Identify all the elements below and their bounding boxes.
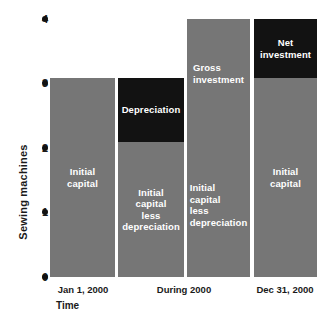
bar-2-segment-depreciation: Depreciation — [118, 78, 184, 142]
x-tick-label-during-2000: During 2000 — [123, 283, 245, 297]
bar-1-segment-initial-capital: Initial capital — [50, 78, 115, 277]
bar-2-depreciation-label: Depreciation — [120, 104, 183, 116]
chart-figure: Sewing machines 4 3 2 1 0 Initial capita… — [0, 0, 328, 322]
bar-2-segment-initial-capital-less-depreciation: Initial capital less depreciation — [118, 142, 184, 277]
bar-3-stack — [187, 19, 250, 277]
bar-4-net-investment-label: Net investment — [258, 37, 313, 60]
bar-2-base-label: Initial capital less depreciation — [120, 187, 182, 233]
x-axis-title: Time — [56, 300, 79, 311]
bar-4-base-label: Initial capital — [268, 166, 303, 189]
x-tick-label-dec-31-2000: Dec 31, 2000 — [245, 283, 325, 297]
bar-1-segment-label: Initial capital — [65, 166, 100, 189]
bar-3-gross-investment-label: Gross investment — [191, 62, 246, 102]
bar-3-gross-investment-label-wrap: Gross investment — [187, 62, 250, 102]
bar-3-base-label: Initial capital less depreciation — [188, 182, 250, 232]
x-tick-label-jan-1-2000: Jan 1, 2000 — [40, 283, 126, 297]
bar-3-base-label-wrap: Initial capital less depreciation — [187, 182, 250, 232]
plot-area: Initial capital Depreciation Initial cap… — [0, 0, 328, 322]
bar-4-segment-initial-capital: Initial capital — [254, 78, 317, 277]
bar-4-segment-net-investment: Net investment — [254, 19, 317, 78]
